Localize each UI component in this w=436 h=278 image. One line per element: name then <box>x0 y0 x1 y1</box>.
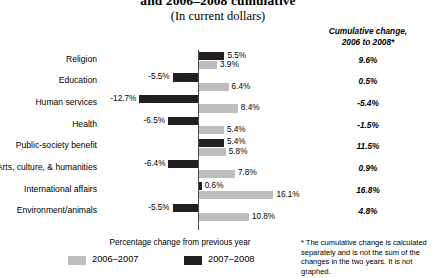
bar-value-label: -5.5% <box>148 72 169 81</box>
category-label: Religion <box>66 54 97 64</box>
cumulative-change-value: -1.5% <box>300 120 436 130</box>
bar-2006-2007 <box>199 148 226 156</box>
bar-value-label: 7.8% <box>238 168 257 177</box>
legend-swatch-icon-2006-2007 <box>68 256 86 265</box>
footnote: * The cumulative change is calculated se… <box>301 238 433 276</box>
category-label: International affairs <box>24 184 97 194</box>
category-label: Environment/animals <box>17 205 97 215</box>
category-label: Arts, culture, & humanities <box>0 162 97 172</box>
bar-2007-2008 <box>199 182 202 190</box>
bar-value-label: 6.4% <box>232 82 251 91</box>
bar-value-label: 0.6% <box>205 181 224 190</box>
bar-value-label: -6.5% <box>144 116 165 125</box>
bar-2006-2007 <box>199 104 238 112</box>
bar-2007-2008 <box>168 160 198 168</box>
bar-2007-2008 <box>173 73 198 81</box>
cumulative-change-value: 11.5% <box>300 141 436 151</box>
category-label: Education <box>59 75 97 85</box>
legend-label-2006-2007: 2006–2007 <box>92 254 139 264</box>
bar-2007-2008 <box>173 204 198 212</box>
legend-swatch-icon-2007-2008 <box>184 256 202 265</box>
cumulative-change-value: -5.4% <box>300 98 436 108</box>
bar-value-label: -6.4% <box>144 159 165 168</box>
bar-value-label: -12.7% <box>110 94 136 103</box>
category-label: Health <box>72 119 97 129</box>
bar-2006-2007 <box>199 83 229 91</box>
bar-2006-2007 <box>199 61 217 69</box>
bar-2007-2008 <box>199 52 224 60</box>
bar-value-label: 5.4% <box>227 125 246 134</box>
chart-legend: 2006–2007 2007–2008 <box>60 254 300 268</box>
bar-value-label: 16.1% <box>276 190 299 199</box>
bar-value-label: 5.4% <box>227 137 246 146</box>
bar-2007-2008 <box>139 95 198 103</box>
cumulative-change-value: 9.6% <box>300 55 436 65</box>
chart-subtitle: (In current dollars) <box>0 9 436 24</box>
cumulative-change-value: 4.8% <box>300 206 436 216</box>
cumulative-change-value: 0.5% <box>300 76 436 86</box>
bar-2006-2007 <box>199 126 224 134</box>
bar-2006-2007 <box>199 213 249 221</box>
category-label: Public-society benefit <box>16 140 97 150</box>
bar-2007-2008 <box>168 117 198 125</box>
bar-value-label: 5.5% <box>227 51 246 60</box>
cumulative-change-value: 16.8% <box>300 185 436 195</box>
chart-title: and 2006–2008 cumulative <box>0 0 436 9</box>
axis-caption: Percentage change from previous year <box>60 238 300 247</box>
cumulative-change-value: 0.9% <box>300 163 436 173</box>
cumulative-change-header: Cumulative change,2006 to 2008* <box>300 26 436 47</box>
bar-value-label: 5.8% <box>229 147 248 156</box>
bar-2006-2007 <box>199 170 235 178</box>
bar-value-label: -5.5% <box>148 203 169 212</box>
bar-2007-2008 <box>199 139 224 147</box>
bar-value-label: 3.9% <box>220 60 239 69</box>
bar-value-label: 8.4% <box>241 103 260 112</box>
bar-2006-2007 <box>199 191 273 199</box>
legend-label-2007-2008: 2007–2008 <box>208 254 255 264</box>
bar-value-label: 10.8% <box>252 212 275 221</box>
category-label: Human services <box>35 97 97 107</box>
